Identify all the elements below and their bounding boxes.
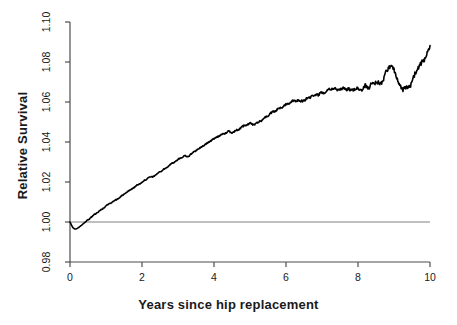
y-axis-tick-label-text: 1.06 (40, 92, 52, 112)
relative-survival-chart-figure: Relative Survival Years since hip replac… (0, 0, 457, 325)
axis-lines (70, 22, 430, 262)
x-axis-tick-label-text: 8 (355, 271, 361, 283)
x-axis-title: Years since hip replacement (0, 297, 457, 312)
y-axis-title: Relative Survival (0, 0, 46, 290)
y-axis-tick-label-text: 0.98 (40, 252, 52, 272)
data-series-line (70, 46, 430, 229)
x-axis-tick-label-text: 6 (283, 271, 289, 283)
x-axis-ticks (70, 262, 430, 267)
y-axis-tick-label-text: 1.10 (40, 12, 52, 32)
y-axis-title-text: Relative Survival (16, 91, 31, 198)
y-axis-tick-label-text: 1.04 (40, 132, 52, 152)
data-series-group (70, 46, 430, 229)
y-axis-tick-label-text: 1.02 (40, 172, 52, 192)
x-axis-tick-label-text: 2 (139, 271, 145, 283)
x-axis-tick-label-text: 0 (67, 271, 73, 283)
y-axis-tick-label-text: 1.00 (40, 212, 52, 232)
y-axis-ticks (65, 22, 70, 262)
x-axis-tick-label-text: 4 (211, 271, 217, 283)
y-axis-tick-label-text: 1.08 (40, 52, 52, 72)
x-axis-tick-label-text: 10 (424, 271, 436, 283)
